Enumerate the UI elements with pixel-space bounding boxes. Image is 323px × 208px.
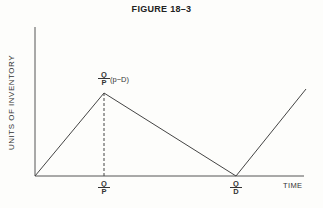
x-tick-q-over-d: Q D [230,180,242,195]
next-cycle-buildup-line [236,89,306,176]
inventory-diagram [0,0,323,208]
y-axis-label: UNITS OF INVENTORY [7,48,16,158]
inventory-buildup-line [35,93,104,176]
x-tick-q-over-p-denominator: P [98,188,110,195]
x-tick-q-over-d-denominator: D [230,188,242,195]
inventory-depletion-line [104,93,236,176]
x-tick-q-over-p: Q P [98,180,110,195]
peak-fraction-label: Q P [98,71,110,86]
peak-denominator: P [98,79,110,86]
x-axis-label: TIME [283,181,303,190]
peak-suffix-label: (p−D) [110,75,129,84]
